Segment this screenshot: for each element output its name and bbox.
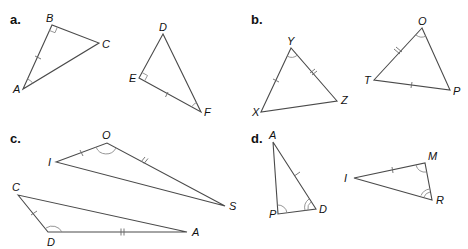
vertex-label-p: P	[453, 85, 461, 97]
angle-arc-a	[28, 79, 34, 84]
angle-arc-f	[192, 103, 197, 107]
angle-arc-o	[416, 35, 426, 37]
vertex-label-i-c: I	[48, 156, 51, 168]
triangle-cda: C D A	[12, 181, 199, 248]
triangle-abc-edges	[23, 25, 99, 89]
triangle-imr-edges	[354, 163, 432, 200]
triangle-cda-edges	[18, 195, 187, 232]
vertex-label-y: Y	[287, 35, 295, 47]
triangle-def: D E F	[129, 21, 212, 118]
triangle-abc: A B C	[12, 12, 110, 95]
part-d: d. A P D I M R	[251, 129, 444, 220]
vertex-label-t: T	[364, 74, 372, 86]
vertex-label-m: M	[428, 150, 438, 162]
part-c-label: c.	[10, 131, 21, 146]
angle-arc-d-1	[308, 202, 311, 210]
tick-mark-im	[392, 167, 393, 173]
triangle-otp-edges	[374, 28, 450, 90]
congruent-triangles-diagram: a. A B C D E F b.	[0, 0, 468, 249]
angle-arc-r-1	[424, 192, 430, 197]
triangle-apd: A P D	[268, 129, 327, 220]
triangle-otp: O T P	[364, 15, 461, 97]
vertex-label-b: B	[46, 12, 53, 24]
triangle-imr: I M R	[344, 150, 444, 206]
part-c: c. O I S C D A	[10, 129, 237, 248]
vertex-label-r: R	[436, 194, 444, 206]
triangle-def-edges	[139, 34, 201, 112]
vertex-label-c-c: C	[12, 181, 20, 193]
vertex-label-d: D	[159, 21, 167, 33]
angle-arc-d-c	[46, 226, 62, 232]
vertex-label-a: A	[12, 83, 20, 95]
vertex-label-x: X	[251, 106, 260, 118]
vertex-label-i-d: I	[344, 172, 347, 184]
tick-mark-os-2	[144, 159, 148, 164]
vertex-label-f: F	[204, 106, 212, 118]
angle-arc-y	[287, 55, 298, 57]
triangle-xyz: Y X Z	[251, 35, 349, 118]
angle-arc-o-c	[96, 147, 116, 154]
tick-mark-tp	[411, 82, 412, 88]
vertex-label-p-d: P	[269, 208, 277, 220]
vertex-label-d-c: D	[47, 236, 55, 248]
vertex-label-d-d: D	[319, 203, 327, 215]
vertex-label-a-c: A	[191, 226, 199, 238]
triangle-ios: O I S	[48, 129, 237, 212]
vertex-label-c: C	[102, 38, 110, 50]
vertex-label-o: O	[418, 15, 427, 27]
vertex-label-s: S	[229, 200, 237, 212]
tick-mark-os-1	[141, 157, 145, 162]
vertex-label-a-d: A	[268, 129, 276, 141]
part-a: a. A B C D E F	[10, 12, 212, 118]
vertex-label-o-c: O	[102, 129, 111, 141]
part-b: b. Y X Z O T P	[251, 12, 461, 118]
part-d-label: d.	[251, 131, 263, 146]
tick-mark-ad	[295, 172, 300, 176]
vertex-label-e: E	[129, 72, 137, 84]
triangle-xyz-edges	[261, 48, 337, 112]
part-b-label: b.	[251, 12, 263, 27]
angle-arc-m	[416, 165, 427, 172]
vertex-label-z: Z	[340, 94, 349, 106]
part-a-label: a.	[10, 12, 21, 27]
angle-arc-p	[278, 205, 288, 213]
